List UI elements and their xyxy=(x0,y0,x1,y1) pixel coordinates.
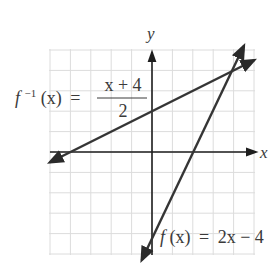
inverse-function-label: f −1 (x) = x + 4 2 xyxy=(15,75,147,121)
y-axis-label: y xyxy=(145,24,155,43)
inverse-fn-name: f xyxy=(15,88,23,108)
function-label: f (x) = 2x − 4 xyxy=(160,227,264,248)
inverse-denominator: 2 xyxy=(119,101,128,121)
inverse-superscript: −1 xyxy=(25,87,37,99)
inverse-arg: (x) xyxy=(41,88,62,109)
inverse-numerator: x + 4 xyxy=(104,75,141,95)
x-axis-label: x xyxy=(259,143,268,162)
labels: y x f −1 (x) = x + 4 2 f (x) = 2x − 4 xyxy=(15,24,268,248)
inverse-equals: = xyxy=(70,88,80,108)
graph: y x f −1 (x) = x + 4 2 f (x) = 2x − 4 xyxy=(0,0,278,266)
